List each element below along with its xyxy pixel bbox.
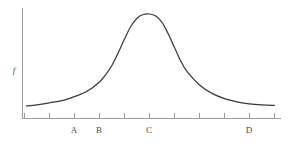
x-axis-tick-group [25,113,275,118]
y-axis-title-f: f [13,66,16,75]
x-tick-label-c: C [146,126,152,135]
plot-figure: f A B C D [0,0,290,149]
x-tick-label-a: A [71,126,78,135]
x-tick-label-d: D [246,126,253,135]
curve-line [27,14,275,106]
x-tick-label-b: B [96,126,102,135]
